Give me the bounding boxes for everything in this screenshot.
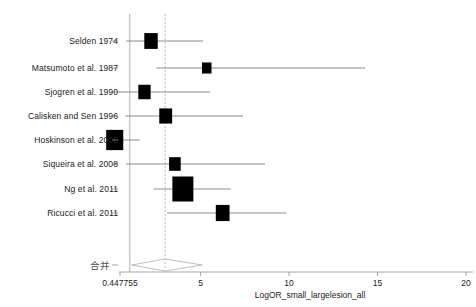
study-marker — [169, 157, 181, 171]
x-tick-label: 10 — [284, 278, 293, 288]
x-tick-label: 20 — [461, 278, 470, 288]
study-label: Sjogren et al. 1990 — [45, 87, 118, 97]
study-marker — [159, 108, 172, 123]
study-marker — [144, 33, 157, 49]
x-tick-label: 5 — [198, 278, 203, 288]
study-marker — [172, 177, 193, 202]
study-label: Siqueira et al. 2008 — [43, 159, 118, 169]
study-marker — [216, 205, 230, 221]
pooled-label: 合并 — [70, 258, 110, 272]
study-label: Hoskinson et al. 2002 — [34, 135, 118, 145]
study-label: Calisken and Sen 1996 — [28, 111, 118, 121]
study-marker — [138, 85, 150, 99]
study-label: Matsumoto et al. 1987 — [32, 63, 118, 73]
x-tick-label: 15 — [373, 278, 382, 288]
study-label: Selden 1974 — [69, 36, 118, 46]
study-label: Ricucci et al. 2011 — [47, 208, 118, 218]
study-marker — [202, 62, 212, 73]
study-label: Ng et al. 2011 — [64, 184, 118, 194]
x-axis-title: LogOR_small_largelesion_all — [255, 290, 366, 300]
x-tick-label: 0.447755 — [102, 278, 137, 288]
